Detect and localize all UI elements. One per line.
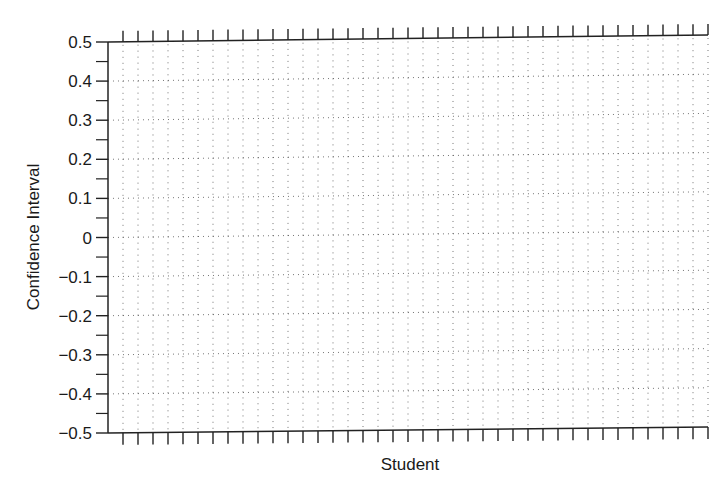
y-tick-label: −0.2 — [58, 307, 92, 326]
y-tick-label: 0.4 — [68, 72, 92, 91]
y-tick-label: −0.3 — [58, 346, 92, 365]
y-tick-label: 0.5 — [68, 33, 92, 52]
y-gridline — [108, 231, 708, 238]
y-tick-label: 0.3 — [68, 111, 92, 130]
y-tick-label: −0.1 — [58, 268, 92, 287]
x-axis-label: Student — [381, 455, 440, 474]
chart: 0.50.40.30.20.10−0.1−0.2−0.3−0.4−0.5 Con… — [0, 0, 727, 482]
y-tick-label: −0.5 — [58, 424, 92, 443]
y-gridline — [108, 388, 708, 394]
y-gridline — [108, 153, 708, 160]
y-gridline — [108, 309, 708, 315]
y-axis-label: Confidence Interval — [24, 164, 43, 310]
y-tick-label: 0 — [83, 229, 92, 248]
y-tick-label: 0.2 — [68, 150, 92, 169]
y-axis-ticks: 0.50.40.30.20.10−0.1−0.2−0.3−0.4−0.5 — [58, 33, 108, 443]
y-tick-label: −0.4 — [58, 385, 92, 404]
plot-area — [108, 24, 708, 445]
y-tick-label: 0.1 — [68, 189, 92, 208]
y-gridline — [108, 74, 708, 81]
